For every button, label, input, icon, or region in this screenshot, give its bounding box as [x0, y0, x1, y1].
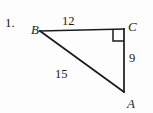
vertex-label-c: C [128, 20, 137, 33]
problem-number: 1. [5, 16, 15, 29]
side-length-label-bc: 12 [62, 15, 75, 28]
side-length-label-ba: 15 [55, 68, 68, 81]
side-ba-line [40, 31, 124, 92]
vertex-label-a: A [127, 97, 135, 110]
right-angle-marker-icon [113, 30, 124, 41]
side-bc-line [40, 29, 124, 31]
vertex-label-b: B [31, 23, 39, 36]
side-length-label-ca: 9 [129, 52, 135, 65]
geometry-figure-page: 1. B C A 12 9 15 [0, 0, 153, 113]
